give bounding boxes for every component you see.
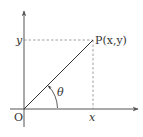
angle-theta-label: θ (57, 86, 64, 99)
point-p-label: P(x,y) (95, 34, 127, 47)
y-tick-label: y (15, 34, 23, 47)
origin-label: O (14, 111, 23, 124)
coordinate-diagram: y P(x,y) θ O x (0, 0, 143, 137)
x-tick-label: x (89, 111, 96, 124)
